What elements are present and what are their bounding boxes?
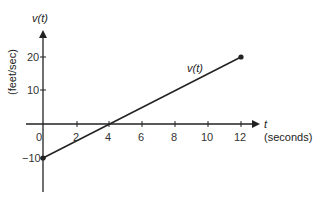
x-tick-label: 4	[105, 131, 111, 143]
x-unit-label: (seconds)	[264, 131, 312, 143]
x-tick-label: 12	[234, 131, 246, 143]
y-tick-label: 20	[27, 51, 39, 63]
x-axis-label: t	[264, 118, 268, 130]
curve-label: v(t)	[187, 62, 203, 74]
x-tick-label: 10	[201, 131, 213, 143]
velocity-chart: 0 2 4 6 8 10 12 20 10 −10 v(t) (feet/sec…	[0, 0, 318, 199]
data-point	[238, 54, 243, 59]
y-tick-label: 10	[27, 84, 39, 96]
y-unit-label: (feet/sec)	[6, 49, 18, 95]
x-tick-label: 0	[36, 131, 42, 143]
y-axis-label: v(t)	[32, 12, 48, 24]
data-point	[40, 155, 45, 160]
x-tick-label: 8	[171, 131, 177, 143]
x-tick-label: 6	[138, 131, 144, 143]
y-tick-label: −10	[22, 152, 41, 164]
